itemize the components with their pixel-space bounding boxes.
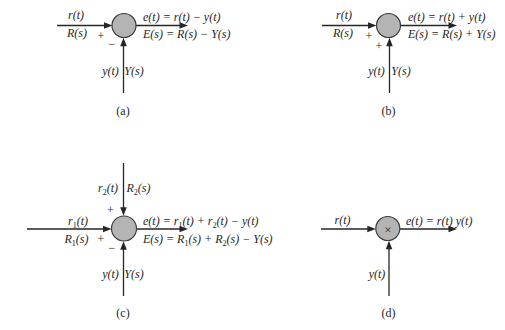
d-input-time-label: r(t) (335, 214, 351, 226)
a-feedback-minus-sign: − (109, 38, 116, 50)
equation-part: E(s) = R (143, 232, 184, 246)
c-feedback-arrowhead (120, 241, 127, 250)
c-input1-s-label: R1(s) (64, 233, 88, 245)
equation-part: (t) + r (182, 214, 212, 228)
a-output-s-equation: E(s) = R(s) − Y(s) (143, 28, 231, 40)
d-feedback-arrowhead (386, 241, 393, 250)
b-output-s-equation: E(s) = R(s) + Y(s) (408, 28, 496, 40)
c-feedback-minus-sign: − (109, 242, 116, 254)
b-feedback-s-label: Y(s) (391, 65, 410, 77)
c-input1-plus-sign: + (98, 233, 105, 245)
c-output-s-equation: E(s) = R1(s) + R2(s) − Y(s) (143, 233, 273, 245)
label-part: (s) (138, 181, 151, 195)
a-summing-junction (112, 14, 136, 38)
d-input-arrowhead (367, 226, 376, 233)
c-feedback-time-label: y(t) (102, 268, 119, 280)
a-output-time-equation: e(t) = r(t) − y(t) (143, 11, 221, 23)
d-feedback-time-label: y(t) (369, 268, 386, 280)
d-multiply-icon: × (384, 222, 391, 235)
c-input2-plus-sign: + (107, 204, 114, 216)
c-input2-time-label: r2(t) (98, 182, 118, 194)
figure-summing-junctions: r(t) R(s) + − y(t) Y(s) e(t) = r(t) − y(… (0, 0, 505, 330)
b-caption: (b) (382, 105, 396, 117)
label-part: (t) (107, 181, 118, 195)
equation-part: (t) − y(t) (217, 214, 259, 228)
equation-part: (s) − Y(s) (227, 232, 273, 246)
b-feedback-plus-sign: + (376, 40, 383, 52)
b-feedback-arrowhead (386, 38, 393, 47)
b-output-time-equation: e(t) = r(t) + y(t) (408, 11, 486, 23)
a-feedback-s-label: Y(s) (124, 65, 143, 77)
c-summing-junction (112, 216, 137, 241)
label-part: (t) (77, 214, 88, 228)
c-feedback-s-label: Y(s) (124, 268, 143, 280)
c-input1-time-label: r1(t) (68, 215, 88, 227)
equation-part: (s) + R (188, 232, 222, 246)
diagram-geometry (0, 0, 505, 330)
a-feedback-arrowhead (120, 38, 127, 47)
b-input-plus-sign: + (366, 30, 373, 42)
d-output-time-equation: e(t) = r(t) y(t) (406, 215, 472, 227)
a-feedback-time-label: y(t) (102, 65, 119, 77)
b-input-time-label: r(t) (336, 9, 352, 21)
b-feedback-time-label: y(t) (368, 65, 385, 77)
c-output-time-equation: e(t) = r1(t) + r2(t) − y(t) (143, 215, 259, 227)
a-input-arrowhead (104, 22, 113, 29)
b-summing-junction (377, 14, 401, 38)
b-input-s-label: R(s) (333, 27, 353, 39)
a-input-time-label: r(t) (68, 9, 84, 21)
c-top-input-arrowhead (120, 207, 127, 216)
d-caption: (d) (382, 307, 396, 319)
equation-part: e(t) = r (143, 214, 178, 228)
a-input-s-label: R(s) (67, 27, 87, 39)
c-caption: (c) (116, 307, 129, 319)
c-input2-s-label: R2(s) (126, 182, 150, 194)
a-caption: (a) (116, 105, 129, 117)
label-part: (s) (76, 232, 89, 246)
a-input-plus-sign: + (98, 30, 105, 42)
